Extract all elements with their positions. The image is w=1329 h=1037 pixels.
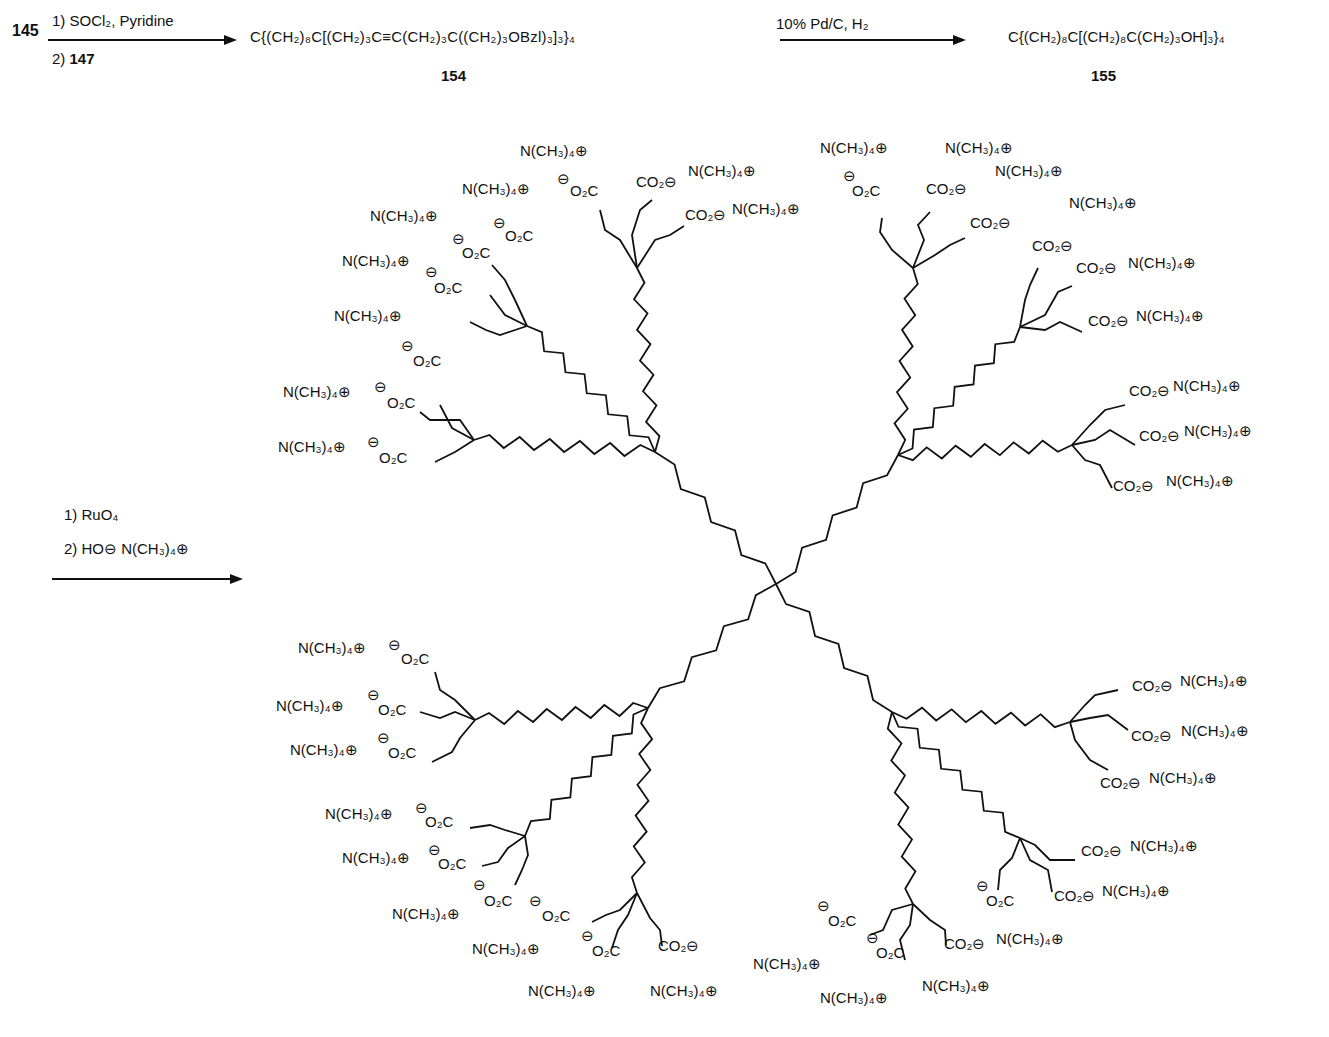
carboxylate-label: ⊖ [529, 893, 542, 908]
carboxylate-label: CO₂⊖ [1139, 428, 1180, 443]
carboxylate-label: O₂C [413, 353, 441, 368]
carboxylate-label: ⊖ [581, 928, 594, 943]
carboxylate-label: O₂C [570, 183, 598, 198]
counterion-label: N(CH₃)₄⊕ [462, 181, 530, 196]
counterion-label: N(CH₃)₄⊕ [278, 439, 346, 454]
carboxylate-label: ⊖ [388, 637, 401, 652]
counterion-label: N(CH₃)₄⊕ [276, 698, 344, 713]
counterion-label: N(CH₃)₄⊕ [820, 140, 888, 155]
carboxylate-label: O₂C [434, 280, 462, 295]
counterion-label: N(CH₃)₄⊕ [688, 163, 756, 178]
counterion-label: N(CH₃)₄⊕ [1136, 308, 1204, 323]
counterion-label: N(CH₃)₄⊕ [528, 983, 596, 998]
counterion-label: N(CH₃)₄⊕ [370, 208, 438, 223]
carboxylate-label: ⊖ [425, 264, 438, 279]
carboxylate-label: O₂C [388, 745, 416, 760]
carboxylate-label: O₂C [484, 893, 512, 908]
counterion-label: N(CH₃)₄⊕ [1069, 195, 1137, 210]
counterion-label: N(CH₃)₄⊕ [1173, 378, 1241, 393]
carboxylate-label: CO₂⊖ [1129, 383, 1170, 398]
carboxylate-label: O₂C [828, 913, 856, 928]
counterion-label: N(CH₃)₄⊕ [650, 983, 718, 998]
counterion-label: N(CH₃)₄⊕ [1102, 883, 1170, 898]
counterion-label: N(CH₃)₄⊕ [820, 990, 888, 1005]
carboxylate-label: ⊖ [367, 687, 380, 702]
carboxylate-label: CO₂⊖ [1131, 728, 1172, 743]
carboxylate-label: O₂C [438, 856, 466, 871]
counterion-label: N(CH₃)₄⊕ [1180, 673, 1248, 688]
counterion-label: N(CH₃)₄⊕ [520, 143, 588, 158]
counterion-label: N(CH₃)₄⊕ [325, 806, 393, 821]
carboxylate-label: CO₂⊖ [1032, 238, 1073, 253]
carboxylate-label: CO₂⊖ [926, 181, 967, 196]
carboxylate-label: ⊖ [843, 168, 856, 183]
carboxylate-label: O₂C [425, 814, 453, 829]
carboxylate-label: CO₂⊖ [1081, 843, 1122, 858]
carboxylate-label: CO₂⊖ [1113, 478, 1154, 493]
carboxylate-label: CO₂⊖ [636, 174, 677, 189]
carboxylate-label: O₂C [462, 245, 490, 260]
carboxylate-label: ⊖ [473, 877, 486, 892]
counterion-label: N(CH₃)₄⊕ [298, 640, 366, 655]
counterion-label: N(CH₃)₄⊕ [753, 956, 821, 971]
carboxylate-label: ⊖ [557, 171, 570, 186]
carboxylate-label: ⊖ [976, 878, 989, 893]
carboxylate-label: CO₂⊖ [1132, 678, 1173, 693]
carboxylate-label: O₂C [852, 183, 880, 198]
carboxylate-label: CO₂⊖ [1076, 260, 1117, 275]
counterion-label: N(CH₃)₄⊕ [1130, 838, 1198, 853]
counterion-label: N(CH₃)₄⊕ [1166, 473, 1234, 488]
counterion-label: N(CH₃)₄⊕ [732, 201, 800, 216]
counterion-label: N(CH₃)₄⊕ [283, 384, 351, 399]
counterion-label: N(CH₃)₄⊕ [1184, 423, 1252, 438]
carboxylate-label: ⊖ [817, 898, 830, 913]
counterion-label: N(CH₃)₄⊕ [922, 978, 990, 993]
counterion-label: N(CH₃)₄⊕ [1181, 723, 1249, 738]
carboxylate-label: ⊖ [401, 338, 414, 353]
carboxylate-label: CO₂⊖ [1100, 775, 1141, 790]
carboxylate-label: O₂C [592, 943, 620, 958]
carboxylate-label: O₂C [542, 908, 570, 923]
carboxylate-label: ⊖ [377, 730, 390, 745]
counterion-label: N(CH₃)₄⊕ [342, 850, 410, 865]
carboxylate-label: ⊖ [367, 434, 380, 449]
carboxylate-label: O₂C [986, 893, 1014, 908]
carboxylate-label: ⊖ [374, 379, 387, 394]
counterion-label: N(CH₃)₄⊕ [290, 742, 358, 757]
carboxylate-label: O₂C [387, 395, 415, 410]
carboxylate-label: O₂C [876, 945, 904, 960]
counterion-label: N(CH₃)₄⊕ [1128, 255, 1196, 270]
carboxylate-label: O₂C [378, 702, 406, 717]
carboxylate-label: O₂C [379, 450, 407, 465]
carboxylate-label: CO₂⊖ [1088, 313, 1129, 328]
counterion-label: N(CH₃)₄⊕ [472, 941, 540, 956]
carboxylate-label: CO₂⊖ [1054, 888, 1095, 903]
carboxylate-label: CO₂⊖ [944, 936, 985, 951]
carboxylate-label: O₂C [505, 228, 533, 243]
carboxylate-label: CO₂⊖ [970, 215, 1011, 230]
carboxylate-label: O₂C [401, 651, 429, 666]
counterion-label: N(CH₃)₄⊕ [996, 931, 1064, 946]
counterion-label: N(CH₃)₄⊕ [945, 140, 1013, 155]
counterion-label: N(CH₃)₄⊕ [392, 906, 460, 921]
counterion-label: N(CH₃)₄⊕ [1149, 770, 1217, 785]
carboxylate-label: CO₂⊖ [685, 207, 726, 222]
counterion-label: N(CH₃)₄⊕ [334, 308, 402, 323]
carboxylate-label: CO₂⊖ [658, 938, 699, 953]
carboxylate-label: ⊖ [866, 930, 879, 945]
counterion-label: N(CH₃)₄⊕ [342, 253, 410, 268]
counterion-label: N(CH₃)₄⊕ [995, 163, 1063, 178]
